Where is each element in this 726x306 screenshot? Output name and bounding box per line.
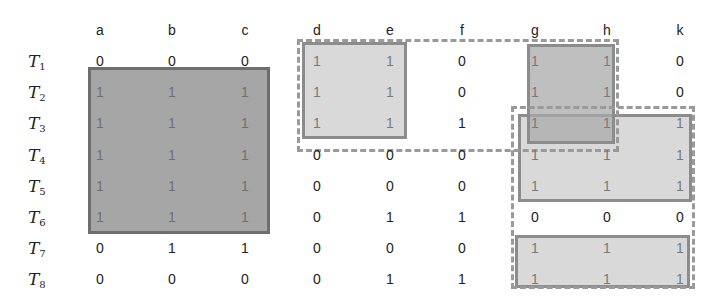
cell-T1-e: 1 bbox=[375, 50, 405, 72]
cell-T2-c: 1 bbox=[230, 81, 260, 103]
cell-T3-c: 1 bbox=[230, 112, 260, 134]
cell-T2-a: 1 bbox=[85, 81, 115, 103]
cell-T5-d: 0 bbox=[302, 175, 332, 197]
cell-T6-g: 0 bbox=[520, 206, 550, 228]
cell-T2-h: 1 bbox=[592, 81, 622, 103]
cell-T5-c: 1 bbox=[230, 175, 260, 197]
cell-T6-a: 1 bbox=[85, 206, 115, 228]
cell-T4-c: 1 bbox=[230, 144, 260, 166]
cell-T3-a: 1 bbox=[85, 112, 115, 134]
column-header-e: e bbox=[375, 20, 405, 40]
binary-matrix-diagram: abcdefghk T1000110110T2111110110T3111111… bbox=[0, 0, 726, 306]
column-header-c: c bbox=[230, 20, 260, 40]
row-header-T8: T8 bbox=[28, 267, 68, 291]
cell-T7-g: 1 bbox=[520, 237, 550, 259]
cell-T1-c: 0 bbox=[230, 50, 260, 72]
cell-T8-d: 0 bbox=[302, 268, 332, 290]
cell-T7-h: 1 bbox=[592, 237, 622, 259]
cell-T4-b: 1 bbox=[157, 144, 187, 166]
row-header-T6: T6 bbox=[28, 205, 68, 229]
cell-T8-b: 0 bbox=[157, 268, 187, 290]
column-header-a: a bbox=[85, 20, 115, 40]
cell-T3-e: 1 bbox=[375, 112, 405, 134]
row-header-T7: T7 bbox=[28, 236, 68, 260]
cell-T7-f: 0 bbox=[447, 237, 477, 259]
cell-T6-e: 1 bbox=[375, 206, 405, 228]
cell-T7-k: 1 bbox=[665, 237, 695, 259]
cell-T2-f: 0 bbox=[447, 81, 477, 103]
cell-T7-e: 0 bbox=[375, 237, 405, 259]
cell-T1-g: 1 bbox=[520, 50, 550, 72]
cell-T3-d: 1 bbox=[302, 112, 332, 134]
cell-T6-b: 1 bbox=[157, 206, 187, 228]
cell-T6-k: 0 bbox=[665, 206, 695, 228]
cell-T2-e: 1 bbox=[375, 81, 405, 103]
cell-T4-h: 1 bbox=[592, 144, 622, 166]
cell-T8-f: 1 bbox=[447, 268, 477, 290]
cell-T5-g: 1 bbox=[520, 175, 550, 197]
cell-T5-a: 1 bbox=[85, 175, 115, 197]
cell-T4-a: 1 bbox=[85, 144, 115, 166]
cell-T3-h: 1 bbox=[592, 112, 622, 134]
row-header-T4: T4 bbox=[28, 143, 68, 167]
cell-T1-b: 0 bbox=[157, 50, 187, 72]
cell-T4-k: 1 bbox=[665, 144, 695, 166]
cell-T5-e: 0 bbox=[375, 175, 405, 197]
cell-T7-c: 1 bbox=[230, 237, 260, 259]
cell-T2-b: 1 bbox=[157, 81, 187, 103]
cell-T3-g: 1 bbox=[520, 112, 550, 134]
cell-T7-b: 1 bbox=[157, 237, 187, 259]
cell-T1-d: 1 bbox=[302, 50, 332, 72]
cell-T4-g: 1 bbox=[520, 144, 550, 166]
cell-T1-k: 0 bbox=[665, 50, 695, 72]
row-header-T5: T5 bbox=[28, 174, 68, 198]
cell-T2-g: 1 bbox=[520, 81, 550, 103]
column-header-g: g bbox=[520, 20, 550, 40]
column-header-b: b bbox=[157, 20, 187, 40]
cell-T8-a: 0 bbox=[85, 268, 115, 290]
cell-T5-h: 1 bbox=[592, 175, 622, 197]
column-header-f: f bbox=[447, 20, 477, 40]
cell-T7-d: 0 bbox=[302, 237, 332, 259]
cell-T6-d: 0 bbox=[302, 206, 332, 228]
cell-T1-f: 0 bbox=[447, 50, 477, 72]
cell-T2-k: 0 bbox=[665, 81, 695, 103]
cell-T8-k: 1 bbox=[665, 268, 695, 290]
cell-T5-b: 1 bbox=[157, 175, 187, 197]
cell-T5-k: 1 bbox=[665, 175, 695, 197]
cell-T2-d: 1 bbox=[302, 81, 332, 103]
cell-T8-h: 1 bbox=[592, 268, 622, 290]
cell-T1-a: 0 bbox=[85, 50, 115, 72]
column-header-k: k bbox=[665, 20, 695, 40]
column-header-h: h bbox=[592, 20, 622, 40]
cell-T8-e: 1 bbox=[375, 268, 405, 290]
cell-T4-f: 0 bbox=[447, 144, 477, 166]
column-header-d: d bbox=[302, 20, 332, 40]
cell-T7-a: 0 bbox=[85, 237, 115, 259]
cell-T8-c: 0 bbox=[230, 268, 260, 290]
cell-T6-c: 1 bbox=[230, 206, 260, 228]
cell-T3-f: 1 bbox=[447, 112, 477, 134]
cell-T1-h: 1 bbox=[592, 50, 622, 72]
row-header-T2: T2 bbox=[28, 80, 68, 104]
cell-T6-f: 1 bbox=[447, 206, 477, 228]
cell-T4-e: 0 bbox=[375, 144, 405, 166]
row-header-T3: T3 bbox=[28, 111, 68, 135]
cell-T4-d: 0 bbox=[302, 144, 332, 166]
cell-T3-k: 1 bbox=[665, 112, 695, 134]
cell-T3-b: 1 bbox=[157, 112, 187, 134]
cell-T5-f: 0 bbox=[447, 175, 477, 197]
row-header-T1: T1 bbox=[28, 49, 68, 73]
cell-T8-g: 1 bbox=[520, 268, 550, 290]
cell-T6-h: 0 bbox=[592, 206, 622, 228]
